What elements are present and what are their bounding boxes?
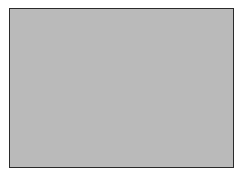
noise-fallback-fill [10,9,233,167]
image-canvas [0,0,243,177]
noise-texture-panel [9,8,234,168]
